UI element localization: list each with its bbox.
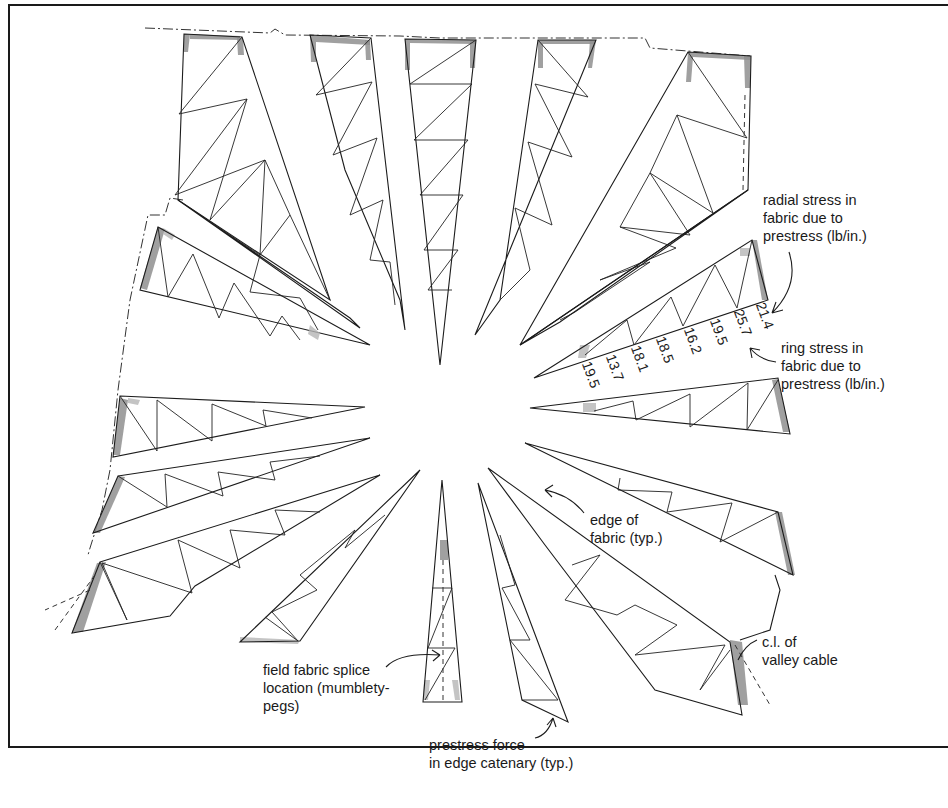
boundary-centerline-left — [88, 198, 183, 555]
edge-of-fabric-label: edge of fabric (typ.) — [590, 511, 663, 547]
splice-arrow — [386, 650, 440, 667]
ring-stress-label: ring stress in fabric due to prestress (… — [781, 339, 885, 393]
panel-6 — [140, 227, 370, 345]
valley-cable-label: c.l. of valley cable — [762, 633, 838, 669]
splice-label: field fabric splice location (mumblety- … — [263, 661, 390, 715]
panel-4 — [475, 40, 596, 335]
panel-14 — [488, 468, 770, 715]
radial-stress-label: radial stress in fabric due to prestress… — [763, 191, 867, 245]
ring-stress-arrow — [750, 348, 776, 362]
radial-stress-arrow — [772, 252, 792, 313]
prestress-force-arrow — [535, 718, 556, 738]
panel-13 — [478, 483, 568, 722]
panel-10 — [45, 475, 380, 633]
panel-5 — [520, 52, 751, 345]
panel-17 — [534, 240, 768, 378]
panel-3 — [405, 39, 476, 365]
panel-1 — [175, 34, 330, 300]
panel-7 — [178, 200, 360, 330]
prestress-force-label: prestress force in edge catenary (typ.) — [429, 736, 573, 772]
panel-2 — [310, 35, 405, 330]
panel-16 — [530, 378, 790, 434]
panel-8 — [113, 396, 365, 457]
edge-of-fabric-arrow — [545, 485, 584, 513]
panel-12 — [423, 480, 462, 702]
panel-11 — [240, 470, 420, 644]
